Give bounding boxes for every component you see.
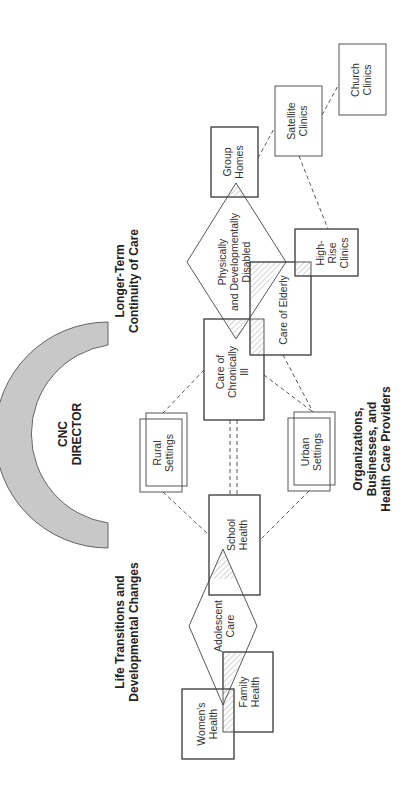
label: Longer-Term: [113, 244, 127, 317]
label: Physically: [216, 238, 228, 285]
label: Chronically: [226, 345, 238, 398]
node-rural-settings: Rural Settings: [140, 413, 187, 492]
label: Group: [221, 147, 233, 176]
label: Life Transitions and: [113, 575, 127, 688]
label: CNC: [56, 421, 70, 447]
label: Homes: [233, 145, 245, 178]
label-womens-health: Women's Health: [195, 702, 219, 745]
label: and Developmentally: [228, 212, 240, 311]
label: Organizations,: [351, 407, 365, 490]
node-school-health: School Health: [209, 495, 260, 595]
label: Rural: [151, 440, 163, 465]
theme-life-transitions: Life Transitions and Developmental Chang…: [113, 562, 141, 702]
node-satellite-clinics: Satellite Clinics: [275, 86, 322, 156]
cnc-director-label: CNC DIRECTOR: [56, 402, 84, 465]
label: Health: [249, 677, 261, 708]
node-church-clinics: Church Clinics: [339, 44, 386, 115]
theme-longer-term: Longer-Term Continuity of Care: [113, 229, 141, 333]
label: Care of: [214, 355, 226, 390]
label: Health Care Providers: [379, 386, 393, 512]
label: Church: [349, 63, 361, 97]
label: Settings: [311, 433, 323, 471]
label: Care: [224, 614, 236, 637]
label: Health: [237, 520, 249, 551]
label: Ill: [238, 368, 250, 376]
label: Satellite: [285, 102, 297, 140]
label: Health: [207, 709, 219, 740]
label: DIRECTOR: [70, 402, 84, 465]
cnc-director-arc: [0, 322, 108, 548]
label: Clinics: [338, 238, 350, 269]
label: Clinics: [361, 65, 373, 96]
label-family-health: Family Health: [237, 676, 261, 708]
label: Adolescent: [212, 600, 224, 652]
theme-organizations: Organizations, Businesses, and Health Ca…: [351, 386, 393, 512]
cnc-diagram: Group Homes Satellite Clinics Church Cli…: [0, 0, 412, 795]
label: Rise: [326, 242, 338, 263]
label: Clinics: [297, 106, 309, 137]
label: Businesses, and: [365, 402, 379, 497]
label: School: [225, 519, 237, 551]
label: Continuity of Care: [127, 229, 141, 333]
label: Care of Elderly: [277, 275, 289, 345]
label: Women's: [195, 702, 207, 745]
label: Developmental Changes: [127, 562, 141, 702]
label: Urban: [299, 438, 311, 467]
label: High-: [314, 240, 326, 266]
label: Family: [237, 676, 249, 708]
label: Settings: [163, 434, 175, 472]
label-care-of-elderly: Care of Elderly: [277, 275, 289, 345]
node-urban-settings: Urban Settings: [288, 412, 335, 491]
